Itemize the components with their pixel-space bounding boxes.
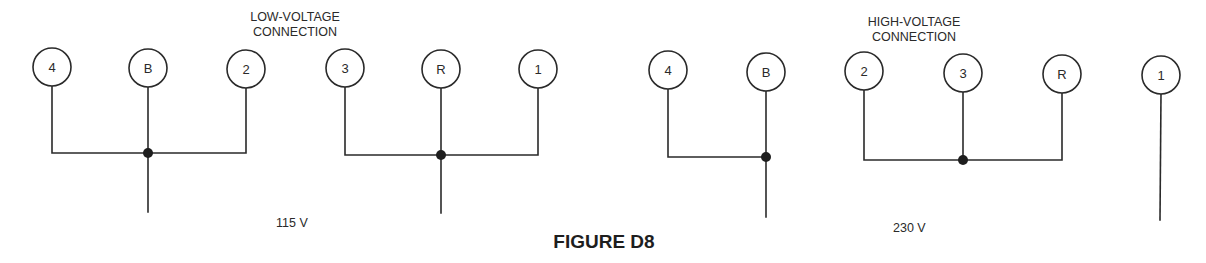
terminal-label: 1 [534,62,541,77]
high-voltage-heading-line1: HIGH-VOLTAGE [868,15,961,29]
motor-connection-diagram: LOW-VOLTAGE CONNECTION 4 B 2 [0,0,1206,263]
low-voltage-group-4-b-2: 4 B 2 [33,48,265,212]
high-voltage-section: HIGH-VOLTAGE CONNECTION 4 B 2 [649,15,1180,235]
terminal-label: B [762,65,771,80]
terminal-label: 2 [242,62,249,77]
high-voltage-group-4-b: 4 B [649,51,785,217]
wire-1-to-lead [1160,94,1161,220]
terminal-1: 1 [519,50,557,88]
junction-dot [143,148,153,158]
high-voltage-label: 230 V [893,221,926,235]
low-voltage-group-3-r-1: 3 R 1 [326,49,557,213]
terminal-label: 4 [664,63,671,78]
terminal-label: 3 [341,61,348,76]
junction-dot [761,152,771,162]
terminal-1: 1 [1142,56,1180,94]
figure-title: FIGURE D8 [553,231,654,252]
terminal-label: 4 [48,60,55,75]
low-voltage-heading-line1: LOW-VOLTAGE [250,10,340,24]
junction-dot [436,150,446,160]
wire-4-to-b [668,89,766,157]
terminal-r: R [422,50,460,88]
terminal-r: R [1043,55,1081,93]
terminal-3: 3 [944,54,982,92]
high-voltage-group-1: 1 [1142,56,1180,220]
high-voltage-heading-line2: CONNECTION [872,30,956,44]
high-voltage-group-2-3-r: 2 3 R [845,52,1081,165]
wire-4-to-bus [52,86,246,153]
terminal-label: 3 [959,66,966,81]
junction-dot [958,155,968,165]
low-voltage-heading-line2: CONNECTION [253,25,337,39]
terminal-3: 3 [326,49,364,87]
terminal-2: 2 [845,52,883,90]
low-voltage-label: 115 V [276,216,308,230]
terminal-label: 2 [860,64,867,79]
terminal-4: 4 [33,48,71,86]
low-voltage-section: LOW-VOLTAGE CONNECTION 4 B 2 [33,10,557,230]
terminal-2: 2 [227,50,265,88]
terminal-b: B [747,53,785,91]
terminal-label: R [436,62,445,77]
terminal-label: B [144,61,153,76]
terminal-b: B [129,49,167,87]
terminal-label: R [1057,67,1066,82]
terminal-4: 4 [649,51,687,89]
terminal-label: 1 [1157,68,1164,83]
